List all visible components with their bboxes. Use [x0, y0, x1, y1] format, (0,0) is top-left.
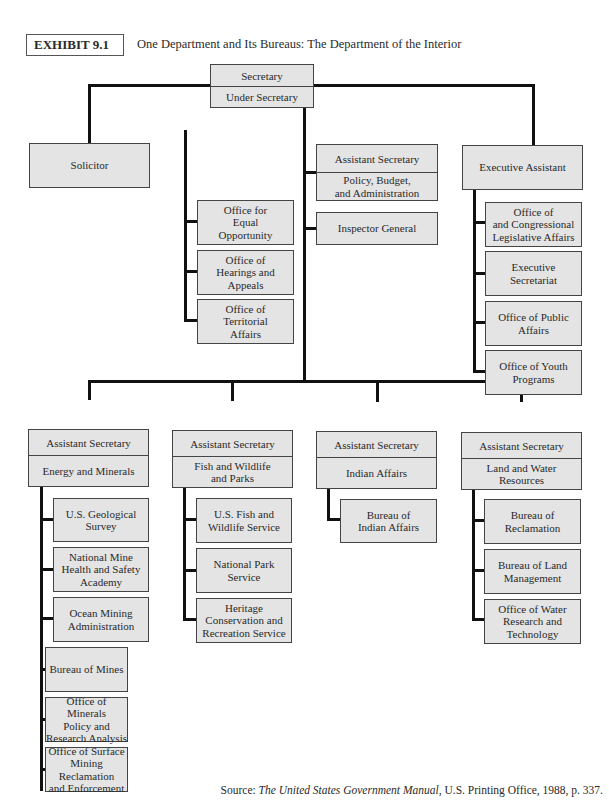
asst-secretary-area: Policy, Budget, and Administration: [317, 173, 437, 200]
bureau-box: National Park Service: [196, 548, 292, 593]
bureau-box: Bureau of Land Management: [484, 549, 581, 594]
staff-office-box: Office of Territorial Affairs: [197, 299, 294, 344]
asst-secretary-title: Assistant Secretary: [317, 432, 436, 458]
secretary-label: Secretary: [211, 65, 313, 87]
staff-office-box: Office of Hearings and Appeals: [197, 250, 294, 295]
bureau-box: Bureau of Reclamation: [484, 499, 581, 544]
secretary-box: Secretary Under Secretary: [210, 64, 314, 108]
connector: [303, 106, 306, 382]
asst-secretary-title: Assistant Secretary: [173, 431, 292, 457]
exec-office-box: Office of Youth Programs: [485, 350, 582, 395]
connector: [40, 518, 54, 521]
executive-assistant-box: Executive Assistant: [462, 145, 583, 190]
bureau-box: U.S. Fish and Wildlife Service: [196, 498, 292, 543]
source-prefix: Source:: [221, 784, 259, 796]
chart-title: One Department and Its Bureaus: The Depa…: [137, 37, 461, 52]
staff-office-box: Office for Equal Opportunity: [197, 200, 294, 245]
connector: [184, 319, 198, 322]
source-citation: Source: The United States Government Man…: [221, 784, 603, 796]
connector: [184, 270, 198, 273]
connector: [88, 380, 523, 383]
asst-secretary-title: Assistant Secretary: [462, 433, 581, 459]
connector: [327, 518, 341, 521]
connector: [472, 487, 475, 621]
asst-secretary-pba-box: Assistant Secretary Policy, Budget, and …: [316, 144, 438, 201]
asst-secretary-fish-box: Assistant Secretary Fish and Wildlife an…: [172, 430, 293, 488]
connector: [231, 380, 234, 401]
asst-secretary-energy-box: Assistant Secretary Energy and Minerals: [28, 429, 149, 487]
bureau-box: U.S. Geological Survey: [53, 498, 149, 542]
inspector-general-box: Inspector General: [316, 212, 438, 245]
under-secretary-label: Under Secretary: [211, 87, 313, 107]
asst-secretary-land-box: Assistant Secretary Land and Water Resou…: [461, 432, 582, 490]
connector: [40, 617, 54, 620]
connector: [376, 380, 379, 402]
connector: [183, 518, 197, 521]
asst-secretary-title: Assistant Secretary: [29, 430, 148, 456]
bureau-box: Heritage Conservation and Recreation Ser…: [196, 598, 292, 643]
connector: [303, 171, 317, 174]
source-book: The United States Government Manual: [259, 784, 439, 796]
solicitor-box: Solicitor: [29, 143, 150, 188]
exec-office-box: Office of Public Affairs: [485, 301, 582, 346]
exec-office-box: Office of and Congressional Legislative …: [485, 202, 582, 247]
bureau-box: National Mine Health and Safety Academy: [53, 547, 149, 592]
connector: [473, 189, 476, 372]
bureau-box: Office of Surface Mining Reclamation and…: [45, 747, 128, 792]
bureau-box: Bureau of Indian Affairs: [340, 499, 437, 543]
connector: [88, 84, 91, 144]
source-suffix: , U.S. Printing Office, 1988, p. 337.: [439, 784, 603, 796]
asst-secretary-area: Land and Water Resources: [462, 459, 581, 489]
bureau-box: Office of Water Research and Technology: [484, 599, 581, 644]
connector: [184, 130, 187, 322]
connector: [40, 485, 43, 791]
connector: [532, 84, 535, 146]
connector: [184, 220, 198, 223]
exhibit-label: EXHIBIT 9.1: [26, 34, 124, 56]
asst-secretary-area: Energy and Minerals: [29, 456, 148, 486]
connector: [183, 618, 197, 621]
bureau-box: Office of Minerals Policy and Research A…: [45, 697, 128, 742]
connector: [303, 227, 317, 230]
connector: [88, 380, 91, 400]
connector: [327, 487, 330, 521]
connector: [40, 568, 54, 571]
bureau-box: Ocean Mining Administration: [53, 597, 149, 642]
asst-secretary-indian-box: Assistant Secretary Indian Affairs: [316, 431, 437, 489]
asst-secretary-area: Indian Affairs: [317, 458, 436, 488]
exec-office-box: Executive Secretariat: [485, 251, 582, 296]
connector: [183, 569, 197, 572]
connector: [183, 486, 186, 620]
bureau-box: Bureau of Mines: [45, 647, 128, 692]
asst-secretary-area: Fish and Wildlife and Parks: [173, 457, 292, 487]
asst-secretary-title: Assistant Secretary: [317, 145, 437, 173]
